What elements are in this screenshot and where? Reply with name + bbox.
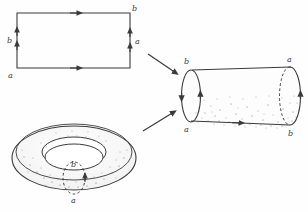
cylinder-label-left-bottom: a (184, 125, 189, 134)
intermediate-cylinder: b a a b (181, 55, 300, 138)
diagram-svg: b a a b (0, 0, 308, 212)
cylinder-label-right-bottom: b (288, 129, 293, 138)
resulting-torus: b a (12, 124, 136, 205)
rectangle-corner-label-bottom-left: a (8, 71, 13, 80)
rectangle-right-edge-label: a (135, 37, 140, 46)
arrow-torus-to-cylinder (143, 112, 174, 131)
cylinder-top-edge (192, 67, 291, 70)
torus-label-inner: b (71, 160, 76, 169)
cylinder-label-left-top: b (184, 57, 189, 66)
rectangle-left-edge-label: b (7, 36, 12, 45)
rectangle-corner-label-top-right: b (132, 4, 137, 13)
torus-label-bottom: a (71, 196, 76, 205)
arrow-rectangle-to-cylinder (148, 54, 176, 73)
cylinder-label-right-top: a (287, 55, 292, 64)
identification-rectangle: b a a b (7, 4, 140, 80)
figure-canvas: b a a b (0, 0, 308, 212)
rectangle-outline (17, 13, 130, 68)
